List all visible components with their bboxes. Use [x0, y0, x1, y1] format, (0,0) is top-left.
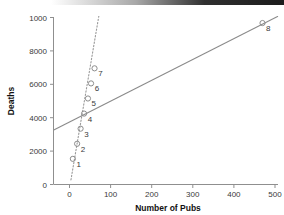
x-tick-label: 200: [145, 190, 159, 199]
data-point-marker: [88, 81, 93, 86]
data-point-label: 4: [88, 115, 93, 124]
y-tick-label: 1000: [29, 14, 47, 23]
data-point-label: 1: [76, 160, 81, 169]
y-tick-label: 8000: [29, 47, 47, 56]
data-point-group: 12345678: [70, 20, 271, 168]
data-point-marker: [85, 96, 90, 101]
data-point-label: 5: [92, 99, 97, 108]
chart-screenshot: 1000 8000 6000 4000 2000 0 0 100 200 300…: [0, 0, 284, 215]
x-tick-label: 0: [67, 190, 72, 199]
scatter-plot: 1000 8000 6000 4000 2000 0 0 100 200 300…: [0, 0, 284, 215]
data-point-label: 3: [84, 130, 89, 139]
data-point-marker: [92, 66, 97, 71]
data-point-label: 2: [81, 145, 86, 154]
x-tick-label: 100: [104, 190, 118, 199]
x-axis-ticks: [70, 185, 276, 189]
y-tick-label: 6000: [29, 80, 47, 89]
y-tick-label: 0: [43, 181, 48, 190]
y-axis-title: Deaths: [6, 87, 16, 116]
x-tick-label: 500: [268, 190, 282, 199]
data-point-label: 7: [98, 69, 103, 78]
data-point-label: 6: [95, 84, 100, 93]
y-axis-tick-labels: 1000 8000 6000 4000 2000 0: [29, 14, 47, 190]
regression-line-solid: [54, 16, 279, 130]
regression-line-dotted: [71, 14, 99, 180]
y-tick-label: 2000: [29, 147, 47, 156]
x-tick-label: 400: [227, 190, 241, 199]
data-point-marker: [78, 126, 83, 131]
x-tick-label: 300: [186, 190, 200, 199]
x-axis-tick-labels: 0 100 200 300 400 500: [67, 190, 282, 199]
data-point-label: 8: [266, 24, 271, 33]
x-axis-title: Number of Pubs: [135, 203, 201, 213]
y-tick-label: 4000: [29, 114, 47, 123]
y-axis-ticks: [50, 18, 54, 185]
